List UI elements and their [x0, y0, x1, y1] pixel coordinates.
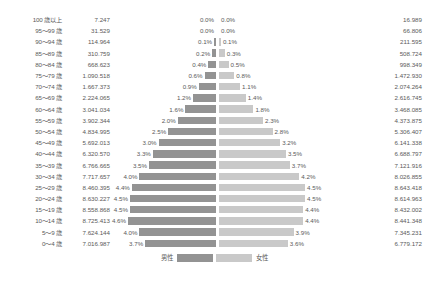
- male-count-value: 1.667.373: [62, 83, 114, 90]
- female-percent-label: 0.0%: [219, 16, 235, 23]
- male-bar: [132, 184, 216, 191]
- female-percent-label: 3.7%: [290, 162, 306, 169]
- pyramid-row: 15～19 歳8.558.8684.5%4.4%8.432.002: [0, 204, 429, 215]
- female-bar-cell: 4.2%: [216, 173, 376, 180]
- age-group-label: 0～4 歳: [0, 239, 62, 248]
- pyramid-row: 75～79 歳1.090.5180.6%0.8%1.472.930: [0, 70, 429, 81]
- pyramid-row: 90～94 歳114.9640.1%0.1%211.595: [0, 36, 429, 47]
- female-bar: [219, 117, 263, 124]
- female-bar: [219, 184, 305, 191]
- female-bar: [219, 139, 280, 146]
- female-percent-label: 3.2%: [280, 139, 296, 146]
- female-count-value: 3.468.085: [376, 106, 429, 113]
- female-count-value: 7.345.231: [376, 229, 429, 236]
- male-count-value: 31.529: [62, 27, 114, 34]
- female-bar-cell: 4.5%: [216, 195, 376, 202]
- male-count-value: 6.320.570: [62, 150, 114, 157]
- male-percent-label: 0.1%: [198, 38, 214, 45]
- female-bar: [219, 206, 303, 213]
- male-count-value: 2.224.065: [62, 94, 114, 101]
- female-bar-cell: 0.5%: [216, 61, 376, 68]
- age-group-label: 60～64 歳: [0, 105, 62, 114]
- age-group-label: 10～14 歳: [0, 216, 62, 225]
- pyramid-row: 100 歳以上7.2470.0%0.0%16.989: [0, 14, 429, 25]
- male-count-value: 8.630.227: [62, 195, 114, 202]
- legend-label-male: 男性: [161, 253, 173, 262]
- female-bar-cell: 3.6%: [216, 240, 376, 247]
- male-count-value: 5.692.013: [62, 139, 114, 146]
- male-bar-cell: 1.2%: [114, 94, 216, 101]
- female-bar-cell: 4.4%: [216, 217, 376, 224]
- female-percent-label: 4.4%: [303, 217, 319, 224]
- female-bar-cell: 0.3%: [216, 49, 376, 56]
- female-bar: [219, 61, 229, 68]
- male-percent-label: 0.2%: [196, 50, 212, 57]
- female-percent-label: 0.1%: [221, 38, 237, 45]
- male-count-value: 8.725.413: [62, 217, 114, 224]
- female-percent-label: 2.8%: [273, 128, 289, 135]
- female-count-value: 6.141.338: [376, 139, 429, 146]
- male-count-value: 7.247: [62, 16, 114, 23]
- male-bar: [153, 150, 216, 157]
- male-count-value: 310.759: [62, 50, 114, 57]
- male-count-value: 8.558.868: [62, 206, 114, 213]
- age-group-label: 85～89 歳: [0, 49, 62, 58]
- male-bar: [185, 105, 216, 112]
- age-group-label: 25～29 歳: [0, 183, 62, 192]
- female-bar: [219, 128, 273, 135]
- pyramid-row: 50～54 歳4.834.9952.5%2.8%5.306.407: [0, 126, 429, 137]
- male-percent-label: 3.7%: [129, 240, 145, 247]
- female-bar-cell: 3.9%: [216, 228, 376, 235]
- female-count-value: 7.121.916: [376, 162, 429, 169]
- pyramid-row: 25～29 歳8.460.3954.4%4.5%8.643.418: [0, 182, 429, 193]
- female-bar: [219, 217, 303, 224]
- female-bar: [219, 72, 234, 79]
- population-pyramid-chart: 100 歳以上7.2470.0%0.0%16.98995～99 歳31.5290…: [0, 0, 429, 281]
- chart-legend: 男性 女性: [0, 252, 429, 264]
- male-count-value: 114.964: [62, 38, 114, 45]
- pyramid-row: 35～39 歳6.766.6653.5%3.7%7.121.916: [0, 159, 429, 170]
- male-bar: [178, 117, 216, 124]
- female-bar-cell: 1.8%: [216, 105, 376, 112]
- pyramid-row: 55～59 歳3.902.3442.0%2.3%4.373.875: [0, 115, 429, 126]
- male-bar: [139, 173, 216, 180]
- pyramid-row: 5～9 歳7.624.1444.0%3.9%7.345.231: [0, 227, 429, 238]
- male-bar: [208, 61, 216, 68]
- legend-swatch-female: [216, 254, 252, 262]
- pyramid-row: 65～69 歳2.224.0651.2%1.4%2.616.745: [0, 92, 429, 103]
- male-count-value: 1.090.518: [62, 72, 114, 79]
- female-percent-label: 3.5%: [286, 150, 302, 157]
- female-count-value: 16.989: [376, 16, 429, 23]
- male-bar-cell: 4.5%: [114, 206, 216, 213]
- female-bar-cell: 4.5%: [216, 184, 376, 191]
- female-count-value: 66.806: [376, 27, 429, 34]
- female-percent-label: 4.5%: [305, 184, 321, 191]
- male-percent-label: 4.6%: [112, 217, 128, 224]
- female-percent-label: 1.8%: [253, 106, 269, 113]
- female-percent-label: 1.1%: [240, 83, 256, 90]
- male-count-value: 7.624.144: [62, 229, 114, 236]
- male-bar-cell: 2.5%: [114, 128, 216, 135]
- male-percent-label: 0.9%: [183, 83, 199, 90]
- male-percent-label: 4.0%: [123, 229, 139, 236]
- pyramid-row: 45～49 歳5.692.0133.0%3.2%6.141.338: [0, 137, 429, 148]
- female-percent-label: 0.5%: [229, 61, 245, 68]
- female-count-value: 211.595: [376, 38, 429, 45]
- female-count-value: 8.643.418: [376, 184, 429, 191]
- female-percent-label: 0.3%: [225, 50, 241, 57]
- age-group-label: 45～49 歳: [0, 138, 62, 147]
- male-count-value: 7.016.987: [62, 240, 114, 247]
- male-bar: [128, 217, 216, 224]
- male-bar-cell: 0.0%: [114, 27, 216, 34]
- female-bar: [219, 240, 288, 247]
- male-count-value: 4.834.995: [62, 128, 114, 135]
- male-count-value: 3.902.344: [62, 117, 114, 124]
- male-bar: [149, 161, 216, 168]
- male-percent-label: 3.3%: [137, 150, 153, 157]
- male-bar-cell: 4.4%: [114, 184, 216, 191]
- male-percent-label: 0.0%: [200, 16, 216, 23]
- male-bar-cell: 3.7%: [114, 240, 216, 247]
- age-group-label: 55～59 歳: [0, 116, 62, 125]
- male-percent-label: 3.0%: [143, 139, 159, 146]
- female-count-value: 2.074.264: [376, 83, 429, 90]
